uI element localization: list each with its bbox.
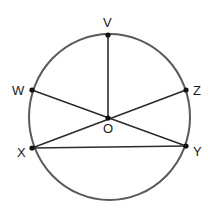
label-o: O: [103, 121, 113, 136]
point-z: [183, 87, 188, 92]
segment-xy: [32, 146, 186, 148]
label-y: Y: [193, 144, 202, 159]
label-v: V: [103, 15, 112, 30]
point-x: [29, 145, 34, 150]
label-x: X: [17, 145, 26, 160]
label-z: Z: [193, 83, 201, 98]
geometry-diagram: VWZOXY: [0, 0, 215, 212]
point-o: [105, 115, 110, 120]
point-y: [183, 143, 188, 148]
point-w: [29, 87, 34, 92]
label-w: W: [12, 83, 25, 98]
point-v: [105, 32, 110, 37]
